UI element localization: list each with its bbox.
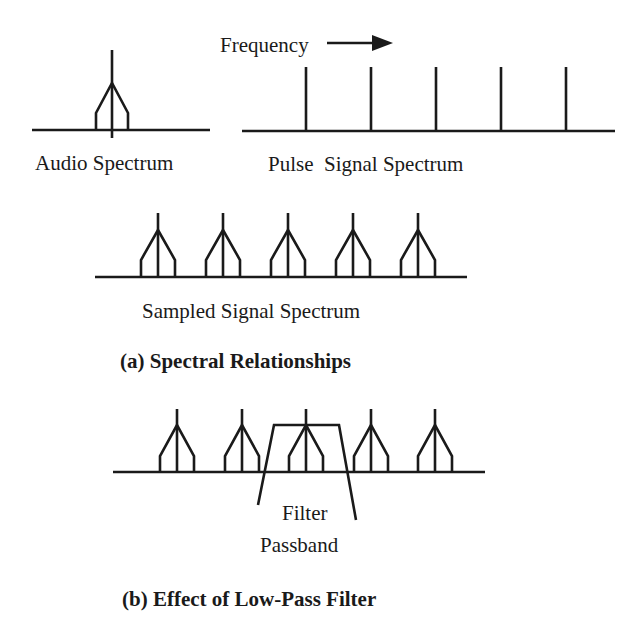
caption-b: (b) Effect of Low-Pass Filter xyxy=(122,587,376,611)
pulse-spectrum-label: Pulse Signal Spectrum xyxy=(268,152,463,176)
filtered-spectrum xyxy=(113,409,485,472)
spectrum-diagram: Frequency Audio Spectrum Pulse Signal Sp… xyxy=(0,0,642,619)
caption-a: (a) Spectral Relationships xyxy=(120,349,351,373)
audio-spectrum-label: Audio Spectrum xyxy=(35,151,173,175)
frequency-label: Frequency xyxy=(220,33,309,57)
filter-label: Filter xyxy=(282,501,328,525)
sampled-spectrum xyxy=(95,213,467,277)
audio-spectrum xyxy=(32,50,210,138)
frequency-arrow-icon xyxy=(327,35,393,51)
sampled-spectrum-label: Sampled Signal Spectrum xyxy=(142,299,360,323)
pulse-spectrum xyxy=(242,67,615,131)
passband-label: Passband xyxy=(260,533,339,557)
